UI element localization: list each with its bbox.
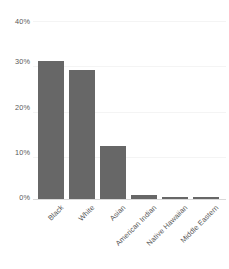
bar-chart: 40% 30% 20% 10% 0% Black White Asian Ame… [0, 0, 229, 269]
y-tick-label-0: 0% [2, 194, 30, 202]
bar-white[interactable] [69, 70, 95, 199]
y-tick-label-30: 30% [2, 58, 30, 66]
x-tick-label-white: White [76, 203, 96, 223]
bar-middle-eastern[interactable] [193, 197, 219, 199]
bars-layer [33, 18, 226, 203]
bar-black[interactable] [38, 61, 64, 199]
y-tick-label-20: 20% [2, 104, 30, 112]
bar-american-indian[interactable] [131, 195, 157, 200]
y-tick-label-10: 10% [2, 149, 30, 157]
y-tick-label-40: 40% [2, 18, 30, 26]
x-tick-label-black: Black [46, 203, 65, 222]
y-axis: 40% 30% 20% 10% 0% [0, 18, 30, 203]
x-tick-label-asian: Asian [108, 203, 128, 223]
bar-native-hawaiian[interactable] [162, 197, 188, 200]
plot-area [33, 18, 226, 203]
bar-asian[interactable] [100, 146, 126, 200]
x-axis: Black White Asian American Indian Native… [33, 203, 229, 269]
